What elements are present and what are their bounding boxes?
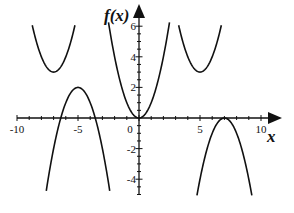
y-tick-label: 4 (131, 51, 137, 63)
y-axis-title: f(x) (104, 6, 129, 25)
curve-1 (32, 25, 75, 72)
x-tick-label: 5 (197, 123, 203, 135)
function-graph: -10-50510-4-2246 f(x) x (0, 0, 294, 213)
x-axis-arrow-icon (268, 112, 282, 124)
x-axis-title: x (266, 127, 276, 146)
axes (17, 4, 282, 195)
y-tick-label: -4 (127, 173, 137, 185)
curve-4 (197, 118, 252, 195)
x-tick-label: -10 (10, 123, 25, 135)
y-axis-arrow-icon (133, 4, 145, 18)
curve-2 (179, 25, 222, 72)
x-tick-label: -5 (73, 123, 83, 135)
curve-3 (46, 87, 109, 190)
x-tick-label: 10 (256, 123, 268, 135)
x-tick-label: 0 (127, 123, 133, 135)
y-tick-label: -2 (127, 143, 136, 155)
y-tick-label: 2 (131, 81, 137, 93)
curves (32, 22, 252, 195)
y-tick-label: 6 (131, 20, 137, 32)
